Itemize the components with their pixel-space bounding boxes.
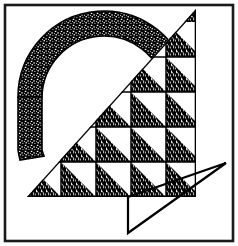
emblem-canvas xyxy=(0,0,238,246)
emblem-artwork xyxy=(0,0,238,246)
